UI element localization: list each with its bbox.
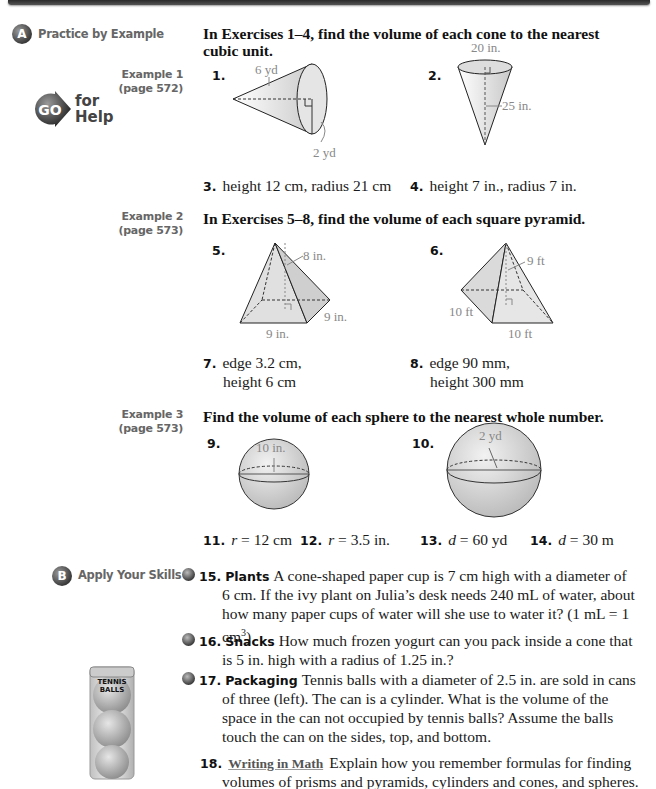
example-2-ref: Example 2 (page 573) xyxy=(100,210,183,238)
exercise-14-text: = 30 m xyxy=(566,531,614,548)
exercise-16-number: 16. xyxy=(199,634,221,649)
can-label-line-2: BALLS xyxy=(100,686,125,694)
can-label-line-1: TENNIS xyxy=(98,678,127,686)
exercise-7-line-1: edge 3.2 cm, xyxy=(222,353,301,372)
exercise-7-number: 7. xyxy=(203,356,216,371)
can-lid xyxy=(90,667,134,677)
exercise-12-number: 12. xyxy=(300,533,322,548)
exercise-13-variable: d xyxy=(448,531,456,548)
example-3-page: (page 573) xyxy=(100,422,183,436)
section-a-letter: A xyxy=(17,27,26,41)
exercise-15-keyword: Plants xyxy=(225,569,269,584)
exercise-15-number: 15. xyxy=(199,569,221,584)
exercise-7-line-2: height 6 cm xyxy=(223,372,302,391)
exercise-9-diameter-label: 10 in. xyxy=(256,440,286,455)
exercise-5-height-label: 8 in. xyxy=(303,248,326,263)
exercise-16-line-2: is 5 in. high with a radius of 1.25 in.? xyxy=(222,650,652,669)
exercise-17-number: 17. xyxy=(199,673,221,688)
globe-icon xyxy=(182,568,195,581)
exercise-16: 16. Snacks How much frozen yogurt can yo… xyxy=(182,631,652,669)
instructions-pyramids: In Exercises 5–8, find the volume of eac… xyxy=(203,210,643,227)
exercise-5-pyramid-figure: 8 in. 9 in. 9 in. xyxy=(225,240,365,340)
tennis-ball-can-image: TENNIS BALLS xyxy=(84,665,144,785)
example-2-title: Example 2 xyxy=(100,210,183,224)
exercise-18-line-2: volumes of prisms and pyramids, cylinder… xyxy=(222,772,656,789)
go-help-word: Help xyxy=(75,109,114,125)
exercise-9-sphere-figure: 10 in. xyxy=(236,434,316,514)
go-for-text: for Help xyxy=(75,93,114,125)
exercise-10-radius-label: 2 yd xyxy=(479,428,502,443)
tennis-ball xyxy=(95,745,129,779)
exercise-17-line-2: of three (left). The can is a cylinder. … xyxy=(222,689,652,708)
exercise-3: 3. height 12 cm, radius 21 cm xyxy=(203,176,391,195)
exercise-1-radius-label: 2 yd xyxy=(313,145,336,160)
exercise-2-number: 2. xyxy=(428,68,441,83)
exercise-6-front-edge-label: 10 ft xyxy=(508,326,533,340)
section-a-label: Practice by Example xyxy=(38,27,164,41)
go-for-word: for xyxy=(75,93,114,109)
exercise-6-pyramid-figure: 9 ft 10 ft 10 ft xyxy=(445,240,575,340)
example-3-title: Example 3 xyxy=(100,408,183,422)
exercise-11: 11. r = 12 cm xyxy=(203,530,292,549)
section-b-badge: B xyxy=(52,566,72,586)
exercise-12: 12. r = 3.5 in. xyxy=(300,530,390,549)
globe-icon xyxy=(182,633,195,646)
exercise-8-line-1: edge 90 mm, xyxy=(429,353,510,372)
exercise-12-text: = 3.5 in. xyxy=(334,531,390,548)
exercise-1-number: 1. xyxy=(212,68,225,83)
exercise-13-text: = 60 yd xyxy=(456,531,507,548)
exercise-9-number: 9. xyxy=(207,436,220,451)
example-1-title: Example 1 xyxy=(100,68,183,82)
exercise-14-variable: d xyxy=(558,531,566,548)
tennis-ball xyxy=(93,710,131,748)
go-text: GO xyxy=(38,102,61,118)
exercise-18-line-1: Explain how you remember formulas for fi… xyxy=(329,753,631,772)
example-1-ref: Example 1 (page 572) xyxy=(100,68,183,96)
exercise-8-line-2: height 300 mm xyxy=(430,372,524,391)
exercise-13: 13. d = 60 yd xyxy=(420,530,507,549)
exercise-7: 7.edge 3.2 cm, height 6 cm xyxy=(203,353,302,391)
exercise-3-text: height 12 cm, radius 21 cm xyxy=(222,176,391,195)
exercise-4-number: 4. xyxy=(410,179,423,194)
exercise-16-line-1: How much frozen yogurt can you pack insi… xyxy=(279,631,633,650)
exercise-5-side-edge-label: 9 in. xyxy=(324,309,347,324)
exercise-13-number: 13. xyxy=(420,533,442,548)
section-b-label: Apply Your Skills xyxy=(78,568,181,582)
exercise-4: 4. height 7 in., radius 7 in. xyxy=(410,176,577,195)
example-3-ref: Example 3 (page 573) xyxy=(100,408,183,436)
section-a-badge: A xyxy=(12,24,32,44)
exercise-8: 8.edge 90 mm, height 300 mm xyxy=(410,353,524,391)
exercise-6-height-label: 9 ft xyxy=(527,253,545,268)
exercise-17-line-3: space in the can not occupied by tennis … xyxy=(222,708,652,727)
exercise-15-line-2: 6 cm. If the ivy plant on Julia’s desk n… xyxy=(222,585,652,604)
go-arrow-icon: GO xyxy=(33,91,73,127)
exercise-14: 14. d = 30 m xyxy=(530,530,614,549)
exercise-3-number: 3. xyxy=(203,179,216,194)
exercise-18: 18. Writing in Math Explain how you reme… xyxy=(200,753,656,789)
exercise-11-text: = 12 cm xyxy=(237,531,292,548)
exercise-4-text: height 7 in., radius 7 in. xyxy=(429,176,576,195)
exercise-10-sphere-figure: 2 yd xyxy=(445,420,545,520)
page-top-bar xyxy=(8,0,650,5)
section-b-letter: B xyxy=(57,569,66,583)
exercise-17-line-4: touch the can on the sides, top, and bot… xyxy=(222,727,652,746)
exercise-17-line-1: Tennis balls with a diameter of 2.5 in. … xyxy=(302,670,636,689)
exercise-2-height-label: 25 in. xyxy=(502,98,532,113)
exercise-11-number: 11. xyxy=(203,533,225,548)
exercise-8-number: 8. xyxy=(410,356,423,371)
exercise-2-cone-figure: 20 in. 25 in. xyxy=(450,40,580,150)
exercise-10-number: 10. xyxy=(412,436,434,451)
go-for-help-logo[interactable]: GO for Help xyxy=(33,91,108,127)
exercise-17-keyword: Packaging xyxy=(225,673,298,688)
example-2-page: (page 573) xyxy=(100,224,183,238)
globe-icon xyxy=(182,672,195,685)
exercise-5-number: 5. xyxy=(212,243,225,258)
exercise-15-line-1: A cone-shaped paper cup is 7 cm high wit… xyxy=(273,566,626,585)
exercise-5-front-edge-label: 9 in. xyxy=(266,326,289,340)
writing-in-math-label: Writing in Math xyxy=(228,756,323,772)
instructions-spheres: Find the volume of each sphere to the ne… xyxy=(203,408,653,425)
exercise-14-number: 14. xyxy=(530,533,552,548)
exercise-1-slant-label: 6 yd xyxy=(255,62,278,77)
exercise-6-number: 6. xyxy=(430,243,443,258)
exercise-18-number: 18. xyxy=(200,756,222,771)
